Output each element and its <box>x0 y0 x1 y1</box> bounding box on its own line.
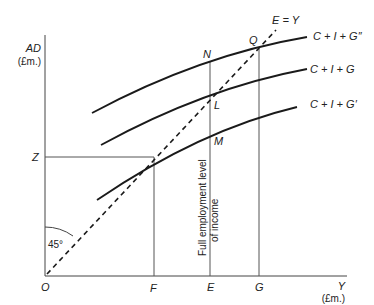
point-f-label: F <box>150 282 158 294</box>
diagonal-label: E = Y <box>272 14 300 26</box>
x-axis-label: Y <box>338 280 346 292</box>
point-z-label: Z <box>31 151 40 163</box>
point-g-label: G <box>255 281 264 293</box>
point-m-label: M <box>214 135 224 147</box>
y-axis-unit: (£m.) <box>18 56 41 67</box>
curve-label-top: C + I + G″ <box>313 30 363 42</box>
angle-label: 45° <box>48 239 63 250</box>
full-employment-annotation: Full employment level of income <box>197 159 220 256</box>
annotation-line-2: of income <box>209 198 220 242</box>
point-e-label: E <box>207 281 215 293</box>
curve-c-i-g-double-prime <box>92 37 307 113</box>
x-axis-unit: (£m.) <box>322 293 345 304</box>
point-q-label: Q <box>249 34 258 46</box>
curve-label-bottom: C + I + G′ <box>310 98 358 110</box>
point-n-label: N <box>203 48 211 60</box>
y-axis-label: AD <box>25 42 41 54</box>
point-l-label: L <box>214 99 220 111</box>
e-equals-y-line <box>47 30 276 274</box>
annotation-line-1: Full employment level <box>197 159 208 256</box>
origin-label: O <box>41 281 50 293</box>
curve-label-middle: C + I + G <box>310 63 355 75</box>
diagram-canvas: AD (£m.) Y (£m.) O F E G Z N Q L M C + I… <box>0 0 374 305</box>
angle-arc-icon <box>45 227 73 236</box>
